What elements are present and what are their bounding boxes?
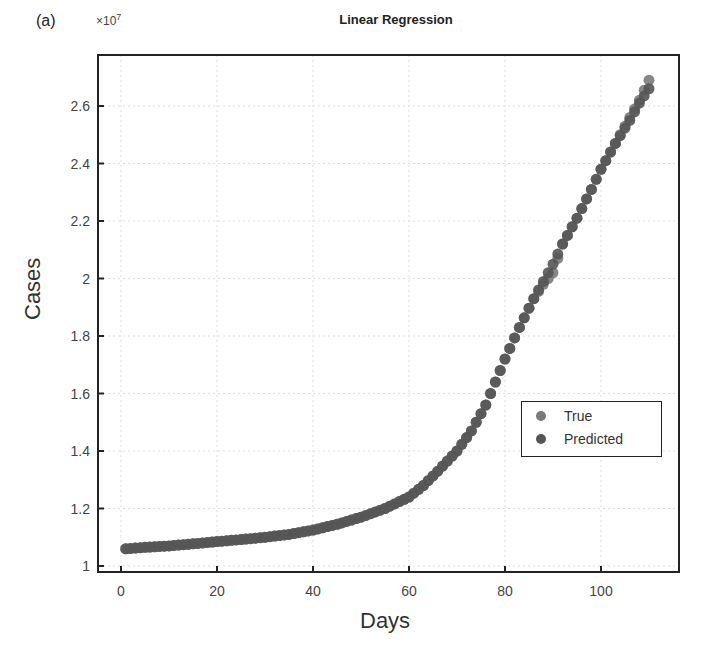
legend-item-true: True [536, 408, 592, 424]
svg-text:0: 0 [117, 583, 125, 599]
exponent-base: ×10 [96, 14, 116, 28]
axis-ticks [98, 106, 601, 572]
svg-text:1.8: 1.8 [71, 328, 91, 344]
legend: True Predicted [521, 401, 662, 457]
legend-label-predicted: Predicted [564, 431, 623, 447]
svg-text:2.6: 2.6 [71, 98, 91, 114]
true-marker-icon [536, 411, 546, 421]
legend-item-predicted: Predicted [536, 431, 623, 447]
y-axis-exponent: ×107 [96, 12, 121, 28]
plot-frame [98, 55, 679, 572]
y-axis-label: Cases [20, 258, 46, 320]
svg-text:2.4: 2.4 [71, 156, 91, 172]
grid-lines [98, 55, 679, 572]
svg-text:2.2: 2.2 [71, 213, 91, 229]
svg-text:40: 40 [305, 583, 321, 599]
x-axis-label: Days [360, 608, 410, 634]
svg-text:1: 1 [82, 558, 90, 574]
svg-text:1.4: 1.4 [71, 443, 91, 459]
svg-text:80: 80 [497, 583, 513, 599]
svg-text:60: 60 [401, 583, 417, 599]
data-points [120, 75, 654, 555]
svg-text:1.2: 1.2 [71, 501, 91, 517]
exponent-power: 7 [116, 12, 121, 22]
svg-text:100: 100 [589, 583, 613, 599]
svg-text:1.6: 1.6 [71, 386, 91, 402]
chart-canvas: 02040608010011.21.41.61.822.22.42.6 [0, 0, 712, 664]
predicted-marker-icon [536, 434, 546, 444]
svg-text:20: 20 [209, 583, 225, 599]
svg-text:2: 2 [82, 271, 90, 287]
legend-label-true: True [564, 408, 592, 424]
